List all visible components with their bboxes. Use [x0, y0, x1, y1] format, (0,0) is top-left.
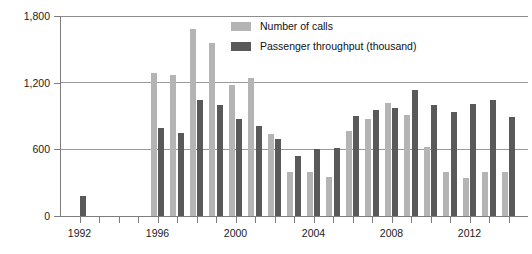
x-tick: [216, 217, 217, 223]
x-tick: [275, 217, 276, 223]
bar: [470, 104, 476, 216]
x-tick: [197, 217, 198, 223]
bar: [373, 110, 379, 216]
legend-item-passenger-throughput: Passenger throughput (thousand): [231, 41, 416, 52]
legend: Number of calls Passenger throughput (th…: [231, 21, 416, 61]
x-tick: [255, 217, 256, 223]
x-tick: [333, 217, 334, 223]
bar: [151, 73, 157, 216]
x-tick: [450, 217, 451, 223]
bar: [482, 172, 488, 216]
bar: [424, 147, 430, 216]
y-axis-label: 1,800: [0, 11, 50, 22]
bar: [307, 172, 313, 216]
bar: [178, 133, 184, 216]
bar: [314, 149, 320, 216]
x-tick: [80, 217, 81, 223]
x-axis-label: 2004: [289, 228, 339, 239]
x-tick: [177, 217, 178, 223]
bar: [158, 128, 164, 216]
bar: [509, 117, 515, 216]
bar: [190, 29, 196, 216]
legend-label-number-of-calls: Number of calls: [260, 21, 333, 32]
bar: [197, 100, 203, 216]
legend-item-number-of-calls: Number of calls: [231, 21, 416, 32]
x-tick: [489, 217, 490, 223]
bar: [248, 78, 254, 216]
bar: [412, 90, 418, 216]
x-tick: [138, 217, 139, 223]
x-tick: [236, 217, 237, 223]
y-axis-label: 1,200: [0, 78, 50, 89]
legend-swatch-dark-icon: [231, 42, 251, 51]
bar: [404, 115, 410, 216]
bar: [502, 172, 508, 216]
bar: [490, 100, 496, 216]
x-tick: [431, 217, 432, 223]
bar: [217, 105, 223, 216]
x-tick: [392, 217, 393, 223]
bar: [229, 85, 235, 216]
bar-chart: 06001,2001,800 199219962000200420082012 …: [0, 0, 532, 254]
x-axis-label: 2000: [211, 228, 261, 239]
bar: [295, 156, 301, 216]
bar: [275, 139, 281, 216]
y-axis-label: 600: [0, 144, 50, 155]
x-tick: [119, 217, 120, 223]
legend-swatch-light-icon: [231, 22, 251, 31]
x-tick: [372, 217, 373, 223]
x-axis-label: 1996: [133, 228, 183, 239]
bar: [209, 43, 215, 216]
x-axis-label: 1992: [55, 228, 105, 239]
bar: [346, 131, 352, 216]
x-axis-label: 2008: [367, 228, 417, 239]
x-axis-label: 2012: [445, 228, 495, 239]
bar: [80, 196, 86, 216]
bar: [236, 119, 242, 216]
bar: [463, 178, 469, 216]
bar: [256, 126, 262, 216]
x-tick: [470, 217, 471, 223]
legend-label-passenger-throughput: Passenger throughput (thousand): [260, 41, 416, 52]
x-tick: [294, 217, 295, 223]
x-tick: [353, 217, 354, 223]
bar: [392, 108, 398, 216]
bar: [334, 148, 340, 216]
bar: [431, 105, 437, 216]
bar: [353, 116, 359, 216]
bar: [326, 177, 332, 216]
x-tick: [411, 217, 412, 223]
bar: [443, 172, 449, 216]
x-tick: [158, 217, 159, 223]
bar: [287, 172, 293, 216]
bar: [365, 119, 371, 216]
bar: [170, 75, 176, 216]
y-axis-label: 0: [0, 211, 50, 222]
x-tick: [509, 217, 510, 223]
bar: [268, 134, 274, 216]
x-tick: [99, 217, 100, 223]
y-tick: [54, 216, 61, 217]
bar: [385, 103, 391, 216]
x-tick: [314, 217, 315, 223]
bar: [451, 112, 457, 216]
